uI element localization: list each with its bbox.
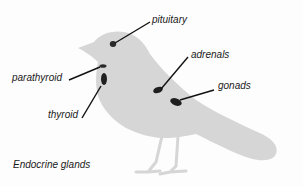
diagram-caption: Endocrine glands [13, 160, 90, 170]
bird-leg-left [136, 136, 162, 172]
pituitary-gland [110, 41, 116, 47]
label-adrenals: adrenals [191, 50, 229, 60]
label-gonads: gonads [218, 81, 251, 91]
label-thyroid: thyroid [48, 110, 78, 120]
thyroid-gland [101, 73, 107, 85]
endocrine-glands-diagram: pituitary parathyroid adrenals thyroid g… [0, 0, 303, 186]
parathyroid-leader-line [69, 67, 100, 80]
thyroid-leader-line [82, 86, 101, 118]
label-parathyroid: parathyroid [12, 73, 62, 83]
parathyroid-gland [100, 64, 107, 68]
label-pituitary: pituitary [152, 15, 187, 25]
bird-leg-right [160, 136, 186, 174]
